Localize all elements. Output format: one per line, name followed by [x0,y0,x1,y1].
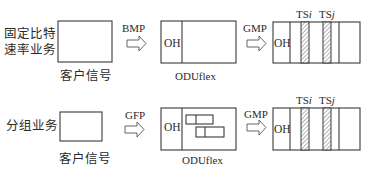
ts-j-label: TSj [319,8,335,20]
opu-tributary-frame: OH [273,108,360,150]
gfp-frame-box [196,127,224,137]
oduflex-frame: OH [161,108,236,150]
arrow-right-icon [247,36,266,51]
oduflex-caption: ODUflex [182,154,223,166]
ts-j-label: TSj [319,94,335,106]
service-label-line2: 速率业务 [4,42,56,57]
mapping-diagram: 固定比特 速率业务 客户信号 BMP OH ODUflex GMP OH TSi… [0,0,368,175]
client-signal-caption: 客户信号 [60,68,112,83]
timeslot-i [301,22,309,63]
oduflex-caption: ODUflex [175,70,216,82]
service-label-line1: 固定比特 [4,26,56,41]
client-signal-caption: 客户信号 [59,151,111,166]
frame-oh-label: OH [274,123,291,135]
client-signal-box [58,21,112,62]
ts-i-label: TSi [296,8,312,20]
bmp-label: BMP [122,22,145,34]
gmp-label: GMP [244,108,268,120]
row-packet: 分组业务 客户信号 GFP OH ODUflex GMP OH TSi TSj [6,94,360,166]
arrow-right-icon [247,120,266,135]
timeslot-j [323,22,331,63]
timeslot-j [323,108,331,150]
client-signal-box [60,112,102,141]
timeslot-i [301,108,309,150]
oduflex-oh-label: OH [164,37,181,49]
service-label: 分组业务 [6,118,58,133]
opu-tributary-frame: OH [273,22,360,63]
gmp-label: GMP [243,22,267,34]
row-fixed-bitrate: 固定比特 速率业务 客户信号 BMP OH ODUflex GMP OH TSi… [4,8,360,83]
gfp-frame-box [186,115,213,124]
oduflex-oh-label: OH [164,121,181,133]
ts-i-label: TSi [296,94,312,106]
arrow-right-icon [127,36,146,51]
oduflex-frame: OH [161,21,236,63]
arrow-right-icon [125,122,144,137]
frame-oh-label: OH [274,37,291,49]
gfp-label: GFP [125,109,145,121]
